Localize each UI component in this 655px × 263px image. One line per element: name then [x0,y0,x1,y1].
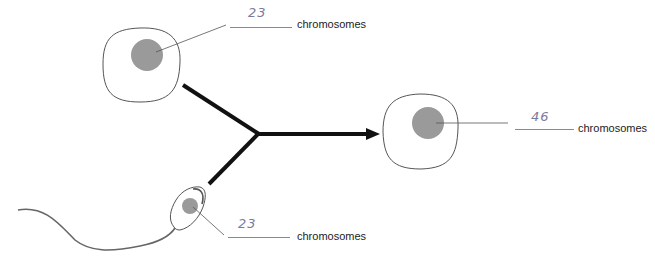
zygote-chromosomes-label: chromosomes [578,122,647,134]
arrowhead-icon [366,128,380,140]
sperm-chromosomes-label: chromosomes [297,230,366,242]
egg-nucleus [131,39,163,71]
sperm-tail [18,209,175,250]
sperm-answer: 23 [238,217,257,231]
egg-cell [103,25,226,102]
diagram-canvas [0,0,655,263]
egg-chromosomes-label: chromosomes [297,18,366,30]
sperm-leader-line [193,207,224,235]
sperm-nucleus [182,198,198,214]
egg-answer: 23 [248,6,267,20]
fertilization-arrow [183,85,380,184]
fertilization-diagram: 23 chromosomes 46 chromosomes 23 chromos… [0,0,655,263]
sperm-cell [18,187,224,250]
zygote-cell [383,94,508,169]
zygote-answer: 46 [531,110,550,124]
